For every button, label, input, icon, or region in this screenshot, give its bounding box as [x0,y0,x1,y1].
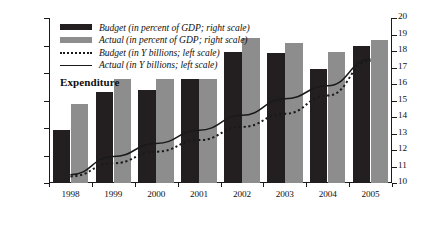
x-axis-label: 2002 [233,189,251,199]
tick-mark [306,183,307,187]
legend-item: Actual (in percent of GDP; right scale) [60,34,328,47]
legend-swatch-actual-bar [60,34,92,46]
tick-mark [178,183,179,187]
legend-label: Actual (in Y billions; left scale) [99,59,217,70]
x-axis-label: 2001 [190,189,208,199]
tick-mark [349,183,350,187]
x-axis-label: 2003 [276,189,294,199]
tick-mark [263,183,264,187]
tick-mark [221,183,222,187]
legend-swatch-budget-bar [60,21,92,33]
chart-legend: Budget (in percent of GDP; right scale)A… [60,21,328,71]
x-axis-label: 2000 [147,189,165,199]
legend-item: Budget (in Y billions; left scale) [60,46,328,59]
legend-item: Budget (in percent of GDP; right scale) [60,21,328,34]
x-axis-label: 1998 [61,189,79,199]
legend-swatch-actual-line [60,59,92,71]
tick-mark [92,183,93,187]
tick-mark [392,183,393,187]
x-axis-label: 2005 [362,189,380,199]
legend-swatch-budget-line [60,46,92,58]
chart-title: Expenditure [60,76,120,88]
expenditure-chart: 1,0001,5002,0002,5003,0003,5004,000 1011… [0,0,436,227]
x-axis-label: 2004 [319,189,337,199]
legend-item: Actual (in Y billions; left scale) [60,59,328,72]
legend-label: Actual (in percent of GDP; right scale) [99,34,248,45]
legend-label: Budget (in percent of GDP; right scale) [99,22,250,33]
tick-mark [49,183,50,187]
x-axis-label: 1999 [104,189,122,199]
tick-mark [135,183,136,187]
legend-label: Budget (in Y billions; left scale) [99,47,220,58]
